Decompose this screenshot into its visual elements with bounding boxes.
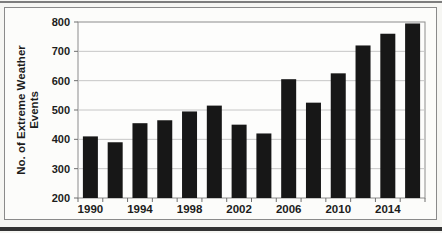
bottom-rule-line [0,227,442,231]
x-label-2010: 2010 [325,203,351,215]
x-label-2002: 2002 [226,203,252,215]
x-label-2006: 2006 [276,203,302,215]
bar-2008 [306,103,321,198]
y-tick-label-200: 200 [52,192,70,204]
bar-1998 [182,111,197,198]
x-label-1994: 1994 [127,203,153,215]
bar-2012 [356,45,371,198]
y-axis-title: No. of Extreme WeatherEvents [15,45,40,175]
y-tick-label-800: 800 [52,16,70,28]
bar-1996 [157,120,172,198]
scanned-page: 2003004005006007008001990199419982002200… [0,0,442,233]
x-label-1998: 1998 [177,203,203,215]
bar-1990 [83,136,98,198]
bar-2000 [207,106,222,198]
bar-1992 [108,142,123,198]
bar-chart-svg: 2003004005006007008001990199419982002200… [5,8,436,219]
bar-2016 [405,23,420,198]
bar-2010 [331,73,346,198]
bar-2004 [256,133,271,198]
x-label-1990: 1990 [78,203,104,215]
top-rule-line [0,1,442,3]
x-label-2014: 2014 [375,203,401,215]
bar-2006 [281,79,296,198]
bar-2002 [232,125,247,198]
y-tick-label-500: 500 [52,104,70,116]
y-tick-label-600: 600 [52,75,70,87]
y-tick-label-400: 400 [52,133,70,145]
chart-figure: 2003004005006007008001990199419982002200… [4,7,437,220]
bar-1994 [132,123,147,198]
bar-2014 [380,34,395,198]
y-tick-label-700: 700 [52,45,70,57]
y-tick-label-300: 300 [52,163,70,175]
